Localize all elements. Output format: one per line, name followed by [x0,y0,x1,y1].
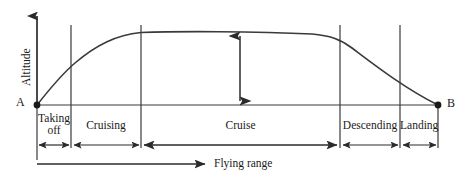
phase-label-landing-line1: Landing [400,119,438,131]
endpoint-label-a: A [16,96,25,109]
phase-label-cruising-line1: Cruising [86,119,126,131]
phase-label-taking-off: Taking off [37,112,71,136]
phase-label-cruising: Cruising [71,119,141,131]
endpoint-dot-b [435,102,442,109]
phase-label-descending: Descending [340,119,400,131]
phase-label-cruise-line1: Cruise [225,119,255,131]
phase-label-taking-off-line1: Taking [38,112,70,124]
flight-profile-diagram: Altitude A B Taking off Cruising Cruise … [0,0,465,184]
phase-label-landing: Landing [400,119,438,131]
phase-label-descending-line1: Descending [343,119,397,131]
phase-label-cruise: Cruise [141,119,340,131]
flight-path-curve [37,32,438,105]
altitude-axis-label: Altitude [20,48,32,86]
endpoint-label-b: B [447,97,455,110]
phase-label-taking-off-line2: off [37,124,71,136]
flying-range-label: Flying range [214,157,272,169]
endpoint-dot-a [34,102,41,109]
